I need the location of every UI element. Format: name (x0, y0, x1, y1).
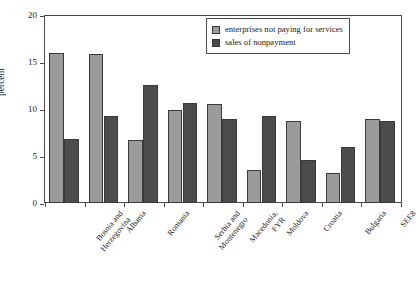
bar (89, 54, 104, 203)
legend-item-label: sales of nonpayment (225, 37, 296, 48)
bar (49, 53, 64, 203)
x-axis-tick (243, 203, 244, 207)
bar (301, 160, 316, 203)
bar (262, 116, 277, 203)
bar (286, 121, 301, 203)
x-axis-label: Bulgaria (363, 209, 388, 237)
y-axis-tick-label: 0 (33, 197, 38, 210)
bar (365, 119, 380, 203)
y-axis-tick-label: 5 (33, 150, 38, 163)
bar-group (365, 15, 395, 203)
x-axis-label: SEE8 (399, 209, 418, 229)
legend-item: sales of nonpayment (212, 36, 343, 49)
x-axis-label: Moldova (284, 209, 310, 238)
tick-mark (40, 204, 44, 205)
x-axis-tick (45, 203, 46, 207)
bar (380, 121, 395, 203)
x-axis-tick (85, 203, 86, 207)
legend-item: enterprises not paying for services (212, 23, 343, 36)
y-axis-title: percent (0, 68, 6, 96)
x-axis-tick (322, 203, 323, 207)
y-axis-tick-label: 15 (28, 56, 37, 69)
x-axis-label: Romania (166, 209, 192, 238)
x-axis-tick (164, 203, 165, 207)
y-axis-tick-label: 20 (28, 9, 37, 22)
y-axis-tick: 0 (0, 203, 44, 204)
bar-group (128, 15, 158, 203)
bar (168, 110, 183, 203)
y-axis-tick: 10 (0, 109, 44, 110)
bar (64, 139, 79, 203)
bar (222, 119, 237, 203)
legend: enterprises not paying for services sale… (206, 18, 350, 54)
bar-chart: percent 05101520 Bosnia and HerzegovinaA… (0, 0, 419, 281)
y-axis-tick: 5 (0, 156, 44, 157)
bar-group (168, 15, 198, 203)
legend-swatch-icon (212, 26, 220, 34)
bar-group (89, 15, 119, 203)
y-axis-tick-label: 10 (28, 103, 37, 116)
x-axis-tick (124, 203, 125, 207)
bar (183, 103, 198, 203)
bar (128, 140, 143, 203)
y-axis-tick: 20 (0, 15, 44, 16)
bar-group (49, 15, 79, 203)
bar (326, 173, 341, 203)
bar (207, 104, 222, 203)
bar (143, 85, 158, 203)
x-axis-label: Macedonia, FYR (248, 209, 287, 251)
x-axis-label: Croatia (322, 209, 345, 234)
x-axis-label: Serbia and Montenegro (209, 209, 249, 252)
bar (247, 170, 262, 203)
legend-swatch-icon (212, 39, 220, 47)
bar (341, 147, 356, 203)
bar (104, 116, 119, 203)
x-axis-tick (282, 203, 283, 207)
x-axis-label: Albania (125, 209, 149, 235)
x-axis-tick (203, 203, 204, 207)
legend-item-label: enterprises not paying for services (225, 24, 343, 35)
x-axis-tick (401, 203, 402, 207)
y-axis-tick: 15 (0, 62, 44, 63)
x-axis-tick (361, 203, 362, 207)
